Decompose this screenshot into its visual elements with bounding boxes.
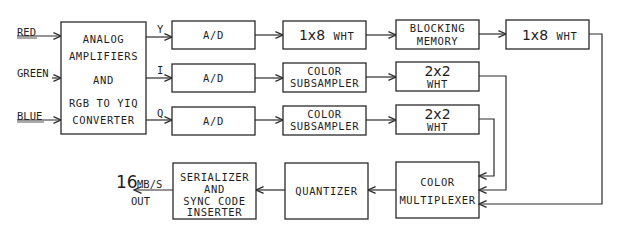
ad-block-y: A/D [172, 21, 255, 49]
wht-1x8-b-unit: WHT [557, 30, 578, 42]
output-label: OUT [131, 195, 151, 207]
ad-i-label: A/D [203, 72, 224, 84]
wht-2x2-q-unit: WHT [427, 121, 448, 133]
ad-y-label: A/D [203, 29, 224, 41]
wht-1x8-block-b: 1x8 WHT [506, 20, 589, 49]
output-rate-unit: MB/S [137, 178, 162, 190]
block-diagram: RED GREEN BLUE ANALOG AMPLIFIERS AND RGB… [0, 0, 623, 234]
blocking-memory-line1: BLOCKING [410, 22, 465, 34]
serializer-block: SERIALIZER AND SYNC CODE INSERTER [173, 163, 256, 219]
wht-1x8-block-a: 1x8 WHT [283, 21, 366, 49]
signal-y-label: Y [157, 23, 164, 35]
subsampler-q-line1: COLOR [307, 108, 342, 120]
ad-block-q: A/D [172, 107, 255, 135]
wht-1x8-b-num: 1x8 [522, 27, 548, 43]
converter-line3: AND [93, 74, 114, 86]
quantizer-label: QUANTIZER [295, 185, 357, 197]
subsampler-q-line2: SUBSAMPLER [290, 120, 359, 132]
subsampler-i-line1: COLOR [307, 65, 342, 77]
ad-block-i: A/D [172, 64, 255, 92]
input-green-label: GREEN [17, 67, 49, 79]
converter-line1: ANALOG [83, 33, 125, 45]
converter-block: ANALOG AMPLIFIERS AND RGB TO YIQ CONVERT… [61, 22, 146, 134]
quantizer-block: QUANTIZER [285, 163, 368, 219]
converter-line2: AMPLIFIERS [69, 50, 138, 62]
wire-2x2-i-mux [479, 76, 506, 190]
wht-2x2-i-num: 2x2 [424, 63, 450, 79]
wire-wht-1x8-mux [479, 34, 602, 204]
converter-line5: CONVERTER [72, 114, 134, 126]
multiplexer-line1: COLOR [420, 176, 455, 188]
color-subsampler-q-block: COLOR SUBSAMPLER [283, 106, 366, 135]
signal-q-label: Q [157, 107, 163, 119]
signal-i-label: I [157, 64, 163, 76]
subsampler-i-line2: SUBSAMPLER [290, 77, 359, 89]
wht-2x2-i-unit: WHT [427, 78, 448, 90]
wht-1x8-a-unit: WHT [334, 30, 355, 42]
serializer-line4: INSERTER [187, 206, 242, 218]
output-rate-value: 16 [116, 172, 138, 192]
wht-2x2-q-block: 2x2 WHT [396, 105, 479, 134]
converter-line4: RGB TO YIQ [69, 97, 138, 109]
wht-2x2-q-num: 2x2 [424, 106, 450, 122]
color-multiplexer-block: COLOR MULTIPLEXER [396, 162, 479, 218]
serializer-line2: AND [204, 183, 225, 195]
wire-2x2-q-mux [479, 119, 494, 176]
serializer-line1: SERIALIZER [180, 171, 249, 183]
multiplexer-line2: MULTIPLEXER [399, 194, 475, 206]
wht-1x8-a-num: 1x8 [299, 27, 325, 43]
blocking-memory-block: BLOCKING MEMORY [396, 20, 479, 49]
wht-2x2-i-block: 2x2 WHT [396, 62, 479, 91]
color-subsampler-i-block: COLOR SUBSAMPLER [283, 63, 366, 92]
ad-q-label: A/D [203, 115, 224, 127]
blocking-memory-line2: MEMORY [417, 35, 459, 47]
